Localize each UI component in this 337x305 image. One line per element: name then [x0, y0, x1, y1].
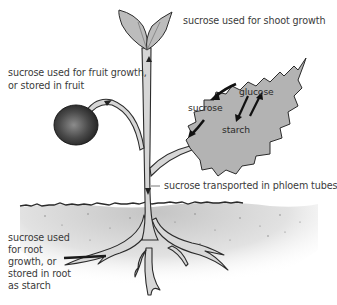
root-label-line5: as starch [8, 280, 51, 292]
root-label-line4: stored in root [8, 268, 71, 280]
fruit-label-line1: sucrose used for fruit growth, [8, 67, 147, 79]
fruit [54, 105, 98, 145]
phloem-label: sucrose transported in phloem tubes [164, 180, 337, 192]
fruit-label-line2: or stored in fruit [8, 80, 84, 92]
root-label-line2: for root [8, 244, 43, 256]
leaf-label-glucose: glucose [239, 86, 274, 98]
leaf [186, 58, 306, 176]
shoot-label: sucrose used for shoot growth [183, 15, 325, 27]
leaf-label-sucrose: sucrose [188, 102, 223, 114]
soil [20, 202, 318, 300]
root-label-line3: growth, or [8, 256, 56, 268]
root-label-line1: sucrose used [8, 232, 70, 244]
leaf-label-starch: starch [222, 124, 250, 136]
shoot-tip [119, 10, 172, 50]
